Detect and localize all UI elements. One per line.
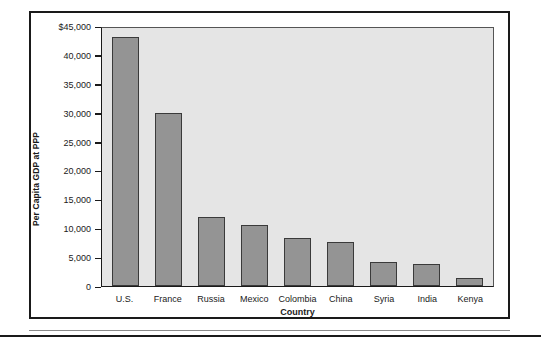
bar-mexico[interactable]	[241, 225, 269, 286]
divider-rule-top	[29, 330, 510, 331]
plot-area	[101, 27, 494, 287]
y-axis-tick-label: 35,000	[63, 78, 91, 92]
y-axis-tick-label: 15,000	[63, 193, 91, 207]
bar-colombia[interactable]	[284, 238, 312, 286]
bar-slot	[276, 28, 319, 286]
chart-figure: Per Capita GDP at PPP 05,00010,00015,000…	[29, 11, 510, 319]
y-axis-tick-label: 5,000	[68, 251, 91, 265]
bar-slot	[104, 28, 147, 286]
bar-series	[102, 28, 493, 286]
y-axis-tick-label: 40,000	[63, 49, 91, 63]
bar-u-s[interactable]	[112, 37, 140, 286]
bar-france[interactable]	[155, 113, 183, 286]
y-axis-tick-label: 25,000	[63, 136, 91, 150]
y-axis-tick-label: 20,000	[63, 164, 91, 178]
bar-kenya[interactable]	[456, 278, 484, 286]
bar-slot	[190, 28, 233, 286]
bar-slot	[233, 28, 276, 286]
y-axis: 05,00010,00015,00020,00025,00030,00035,0…	[31, 27, 101, 287]
y-axis-tick-label: 10,000	[63, 222, 91, 236]
bar-syria[interactable]	[370, 262, 398, 286]
y-axis-tick-label: 30,000	[63, 107, 91, 121]
x-axis-title: Country	[101, 305, 494, 319]
bar-russia[interactable]	[198, 217, 226, 286]
divider-rule-bottom	[0, 335, 541, 337]
bar-slot	[319, 28, 362, 286]
bar-slot	[448, 28, 491, 286]
bar-slot	[362, 28, 405, 286]
bar-slot	[405, 28, 448, 286]
bar-china[interactable]	[327, 242, 355, 286]
bar-slot	[147, 28, 190, 286]
y-axis-tick-label: $45,000	[58, 20, 91, 34]
y-axis-tick-label: 0	[86, 280, 91, 294]
bar-india[interactable]	[413, 264, 441, 286]
